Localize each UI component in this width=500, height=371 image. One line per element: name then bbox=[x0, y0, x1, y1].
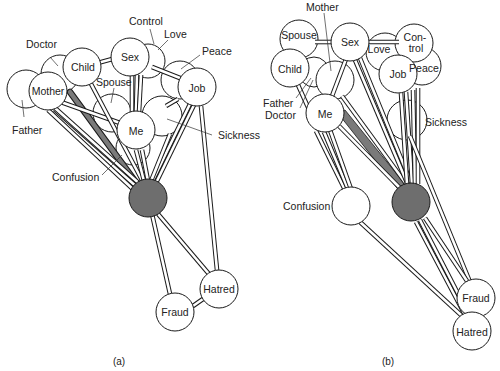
label-spouse-b: Spouse bbox=[281, 29, 317, 41]
label-sickness-b: Sickness bbox=[425, 116, 467, 128]
label-confusion-b: Confusion bbox=[283, 200, 330, 212]
label-love-b: Love bbox=[368, 43, 391, 55]
label-me-a: Me bbox=[129, 125, 144, 137]
label-child-b: Child bbox=[278, 63, 302, 75]
label-father-a: Father bbox=[12, 124, 43, 136]
label-love-a: Love bbox=[164, 28, 187, 40]
label-confusion-a: Confusion bbox=[52, 171, 99, 183]
label-father-b: Father bbox=[263, 97, 294, 109]
label-spouse-a: Spouse bbox=[96, 76, 132, 88]
caption-a: (a) bbox=[113, 356, 125, 367]
label-doctor-a: Doctor bbox=[26, 38, 57, 50]
label-job-b: Job bbox=[390, 68, 407, 80]
label-hatred-a: Hatred bbox=[203, 283, 235, 295]
label-control-a: Control bbox=[129, 15, 163, 27]
node-dark-center-a bbox=[129, 179, 167, 217]
label-mother-b: Mother bbox=[306, 1, 339, 13]
label-sex-a: Sex bbox=[121, 51, 140, 63]
label-me-b: Me bbox=[318, 108, 333, 120]
label-fraud-b: Fraud bbox=[462, 292, 490, 304]
node-confusion-b bbox=[332, 187, 370, 225]
label-hatred-b: Hatred bbox=[456, 326, 488, 338]
node-dark-center-b bbox=[392, 183, 430, 221]
panel-b: Mother Spouse Sex Love Con- trol Child J… bbox=[263, 1, 495, 367]
label-control-b-2: trol bbox=[409, 42, 424, 54]
label-sex-b: Sex bbox=[341, 36, 360, 48]
label-peace-a: Peace bbox=[202, 45, 232, 57]
label-job-a: Job bbox=[189, 82, 206, 94]
label-child-a: Child bbox=[71, 61, 95, 73]
label-fraud-a: Fraud bbox=[161, 306, 189, 318]
label-doctor-b: Doctor bbox=[265, 109, 296, 121]
label-peace-b: Peace bbox=[409, 62, 439, 74]
panel-a: Mother Father Doctor Child Sex Control L… bbox=[7, 15, 260, 367]
label-mother-a: Mother bbox=[32, 85, 65, 97]
label-sickness-a: Sickness bbox=[218, 129, 260, 141]
caption-b: (b) bbox=[382, 356, 394, 367]
ball-and-stick-diagram: Mother Father Doctor Child Sex Control L… bbox=[0, 0, 500, 371]
